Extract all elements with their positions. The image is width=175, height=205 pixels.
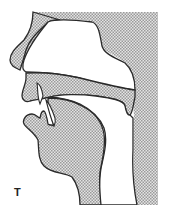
tongue: [23, 98, 104, 205]
vocal-tract-svg: [0, 0, 175, 205]
vocal-tract-diagram: T: [0, 0, 175, 205]
figure-label: T: [14, 187, 21, 198]
